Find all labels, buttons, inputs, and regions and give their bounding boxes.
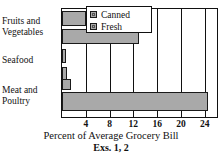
legend-item-fresh: Fresh: [90, 21, 149, 33]
bar-meat-and-poultry-fresh: [62, 92, 208, 111]
legend-label-canned: Canned: [101, 10, 130, 20]
category-label-meat-and-poultry: Meat and Poultry: [2, 85, 60, 106]
legend-swatch-fresh-icon: [90, 23, 97, 30]
bar-chart-figure: Fruits and Vegetables Seafood Meat and P…: [0, 0, 222, 156]
x-tick-label-8: 8: [107, 119, 112, 130]
category-label-line1: Seafood: [2, 55, 33, 65]
category-label-fruits-and-vegetables: Fruits and Vegetables: [2, 16, 60, 37]
legend-item-canned: Canned: [90, 9, 149, 21]
category-label-line2: Poultry: [2, 96, 60, 107]
x-tick-label-20: 20: [176, 119, 186, 130]
bar-fruits-and-vegetables-canned: [62, 11, 86, 26]
figure-caption: Exs. 1, 2: [0, 142, 222, 153]
category-label-seafood: Seafood: [2, 55, 60, 66]
x-tick-label-12: 12: [129, 119, 139, 130]
x-tick-label-16: 16: [152, 119, 162, 130]
category-label-line2: Vegetables: [2, 27, 60, 38]
legend-swatch-canned-icon: [90, 11, 97, 18]
chart-legend: Canned Fresh: [86, 6, 152, 33]
category-axis-labels: Fruits and Vegetables Seafood Meat and P…: [0, 8, 60, 118]
x-axis-title: Percent of Average Grocery Bill: [0, 130, 222, 142]
category-label-line1: Meat and: [2, 85, 38, 95]
x-tick-label-4: 4: [83, 119, 88, 130]
x-tick-label-24: 24: [200, 119, 210, 130]
bar-seafood-canned: [62, 49, 66, 63]
bar-meat-and-poultry-canned: [62, 79, 71, 90]
category-label-line1: Fruits and: [2, 16, 40, 26]
legend-label-fresh: Fresh: [101, 22, 122, 32]
